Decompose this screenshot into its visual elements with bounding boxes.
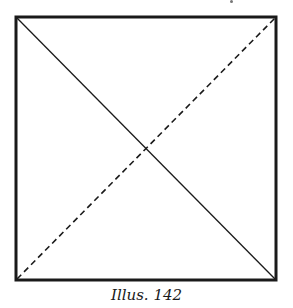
figure-caption: Illus. 142 xyxy=(0,286,293,304)
square-diagram xyxy=(0,0,293,308)
